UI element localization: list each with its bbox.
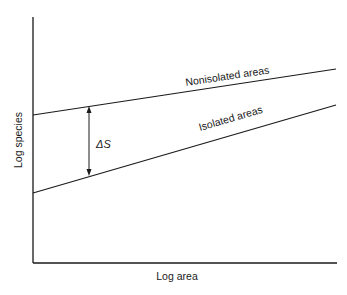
y-axis-label: Log species (12, 112, 24, 168)
nonisolated-label: Nonisolated areas (185, 63, 270, 88)
x-axis-label: Log area (156, 270, 198, 282)
delta-s-label: ΔS (95, 138, 111, 150)
arrow-head-down-icon (87, 169, 92, 176)
species-area-diagram: Nonisolated areas Isolated areas ΔS Log … (0, 0, 347, 295)
isolated-line (33, 105, 336, 193)
